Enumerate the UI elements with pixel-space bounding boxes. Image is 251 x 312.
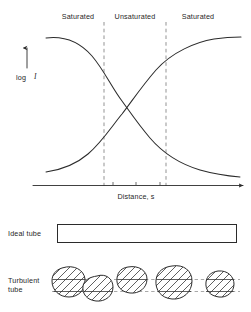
turbulent-tube-label-line1: Turbulent — [8, 276, 39, 285]
turbulent-blob — [199, 266, 237, 304]
curve-descending — [46, 38, 240, 177]
ideal-tube-panel: Ideal tube — [8, 225, 237, 243]
turbulent-tube-label-line2: tube — [8, 285, 23, 294]
figure-root: Saturated Unsaturated Saturated log — [0, 0, 251, 312]
chart-panel: Saturated Unsaturated Saturated log — [16, 12, 243, 201]
figure-canvas: Saturated Unsaturated Saturated log — [0, 0, 251, 312]
curve-ascending — [46, 37, 241, 172]
x-axis-label: Distance, s — [117, 192, 154, 201]
ideal-tube-rectangle — [58, 225, 237, 243]
turbulent-blob — [110, 260, 150, 300]
y-axis-label: log — [16, 73, 26, 82]
y-axis-label-italic-symbol: I — [34, 72, 37, 81]
y-axis-label-text: log — [16, 73, 26, 82]
turbulent-blob — [148, 258, 196, 306]
turbulent-blob — [44, 259, 90, 305]
turbulent-tube-panel: Turbulent tube — [8, 258, 240, 308]
region-label-saturated-right: Saturated — [182, 12, 215, 21]
region-label-saturated-left: Saturated — [62, 12, 95, 21]
region-label-unsaturated: Unsaturated — [115, 12, 156, 21]
ideal-tube-label: Ideal tube — [8, 229, 41, 238]
